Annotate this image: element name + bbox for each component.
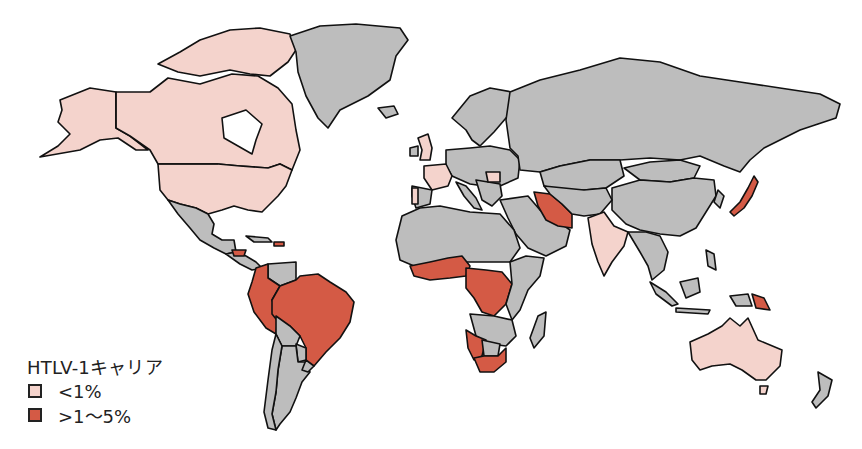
new-zealand [812, 372, 832, 408]
balkans [476, 180, 502, 206]
legend-item-high: >1～5% [27, 403, 163, 427]
hispaniola [274, 242, 284, 246]
central-europe [446, 146, 520, 186]
tasmania [760, 386, 768, 394]
russia [506, 58, 840, 172]
asia [500, 58, 840, 314]
indonesia-sumatra [650, 282, 678, 306]
iceland [378, 106, 398, 118]
east-africa [506, 256, 544, 320]
legend-swatch-low [28, 384, 42, 398]
canada-arctic-islands [158, 28, 296, 76]
canada [116, 74, 300, 170]
legend-label-low: <1% [58, 381, 102, 402]
oceania [690, 318, 832, 408]
legend-swatch-high [28, 408, 42, 422]
australia [690, 318, 782, 380]
philippines [706, 250, 716, 270]
europe [410, 88, 524, 210]
new-guinea-west [730, 294, 752, 306]
southeast-asia [628, 232, 668, 280]
france [424, 164, 452, 190]
papua-new-guinea [752, 294, 770, 310]
madagascar [530, 312, 546, 348]
japan [730, 176, 758, 216]
legend-label-high: >1～5% [58, 402, 131, 428]
north-america [40, 24, 408, 270]
uk [418, 134, 432, 160]
indonesia-borneo [680, 278, 700, 298]
india [588, 212, 628, 276]
south-america [248, 262, 354, 430]
romania [486, 172, 500, 182]
honduras [232, 250, 246, 256]
portugal [412, 188, 418, 204]
legend-title: HTLV-1キャリア [27, 357, 163, 379]
indonesia-java [676, 308, 710, 314]
central-africa-high [466, 268, 512, 316]
ireland [410, 146, 418, 156]
legend: HTLV-1キャリア <1% >1～5% [27, 357, 163, 427]
legend-item-low: <1% [27, 379, 163, 403]
cuba [246, 236, 272, 242]
china [612, 178, 716, 236]
